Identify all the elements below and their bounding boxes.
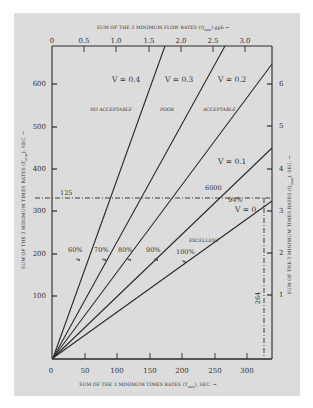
v-line-labels: V = 0.4 V = 0.3 V = 0.2 V = 0.1 V = 0 [111, 75, 256, 214]
top-tick-2: 1.0 [110, 37, 121, 45]
percent-labels: 60% 70% 80% 90% 100% [68, 246, 195, 256]
label-v-0.4: V = 0.4 [111, 75, 141, 84]
zone-no-acceptable: NO ACCEPTABLE [89, 107, 133, 112]
right-axis-title: SUM OF THE 3 MINIMUM TIMES RATES (Qmax),… [287, 156, 294, 295]
bottom-tick-1: 50 [81, 367, 90, 375]
label-v-0.3: V = 0.3 [164, 75, 194, 84]
bottom-tick-3: 150 [143, 367, 156, 375]
label-v-0.2: V = 0.2 [217, 75, 247, 84]
line-v-0.4 [53, 46, 165, 358]
right-tick-6: 6 [279, 80, 284, 88]
right-axis-tick-labels: 6 5 4 3 2 1 [279, 80, 284, 299]
left-axis-title: SUM OF THE 3 MINIMUM TIMES RATES (Tmax),… [21, 131, 28, 269]
line-v-0.1 [53, 148, 272, 358]
left-tick-600: 600 [33, 80, 46, 88]
pct-70: 70% [94, 246, 108, 254]
label-v-0.1: V = 0.1 [217, 157, 246, 166]
right-tick-2: 2 [279, 249, 283, 257]
top-tick-5: 2.5 [207, 37, 218, 45]
left-axis-tick-labels: 600 500 400 300 200 100 [33, 80, 46, 300]
arrow-icon [183, 260, 186, 263]
percent-arrows [77, 258, 186, 263]
pct-80: 80% [118, 246, 132, 254]
annotation-94pct: 94% [228, 196, 242, 204]
bottom-tick-4: 200 [175, 367, 188, 375]
top-axis-title: SUM OF THE 3 MINIMUM FLOW RATES (Qmin) g… [97, 25, 230, 32]
top-tick-6: 3.0 [239, 37, 250, 45]
bottom-tick-2: 100 [110, 367, 123, 375]
pct-100: 100% [176, 248, 195, 256]
top-tick-3: 1.5 [143, 37, 154, 45]
line-v-0 [53, 201, 272, 358]
right-tick-3: 3 [279, 207, 283, 215]
bottom-tick-0: 0 [49, 367, 53, 375]
zone-excellent: EXCELLENT [188, 238, 220, 243]
zone-poor: POOR [159, 107, 175, 112]
zone-labels: NO ACCEPTABLE POOR ACCEPTABLE EXCELLENT [89, 107, 236, 243]
chart-svg: 0 0.5 1.0 1.5 2.0 2.5 3.0 SUM OF THE 3 M… [0, 0, 313, 408]
left-tick-500: 500 [33, 123, 46, 131]
annotation-125: 125 [60, 189, 72, 197]
bottom-axis-tick-labels: 0 50 100 150 200 250 300 [49, 367, 254, 375]
annotation-264: 264 [254, 292, 262, 304]
bottom-axis-ticks [85, 353, 247, 359]
line-v-0.3 [53, 46, 225, 358]
top-tick-1: 0.5 [78, 37, 89, 45]
zone-acceptable: ACCEPTABLE [202, 107, 236, 112]
left-tick-400: 400 [33, 165, 46, 173]
label-v-0: V = 0 [234, 205, 256, 214]
arrow-icon [103, 258, 106, 261]
arrow-icon [77, 258, 80, 261]
top-tick-0: 0 [50, 37, 54, 45]
bottom-tick-6: 300 [240, 367, 253, 375]
left-tick-100: 100 [33, 292, 46, 300]
pct-60: 60% [68, 246, 82, 254]
left-tick-200: 200 [33, 250, 46, 258]
right-axis-ticks [267, 84, 272, 295]
top-tick-4: 2.0 [175, 37, 186, 45]
arrow-icon [128, 258, 131, 261]
annotation-6000: 6000 [205, 184, 222, 192]
right-tick-1: 1 [279, 291, 283, 299]
pct-90: 90% [146, 246, 160, 254]
right-tick-5: 5 [279, 122, 283, 130]
left-tick-300: 300 [33, 207, 46, 215]
top-axis-tick-labels: 0 0.5 1.0 1.5 2.0 2.5 3.0 [50, 37, 251, 45]
right-tick-4: 4 [279, 165, 284, 173]
bottom-axis-title: SUM OF THE 3 MINIMUM TIMES RATES (Tmin),… [79, 382, 216, 389]
left-axis-ticks [52, 84, 57, 296]
bottom-tick-5: 250 [208, 367, 221, 375]
